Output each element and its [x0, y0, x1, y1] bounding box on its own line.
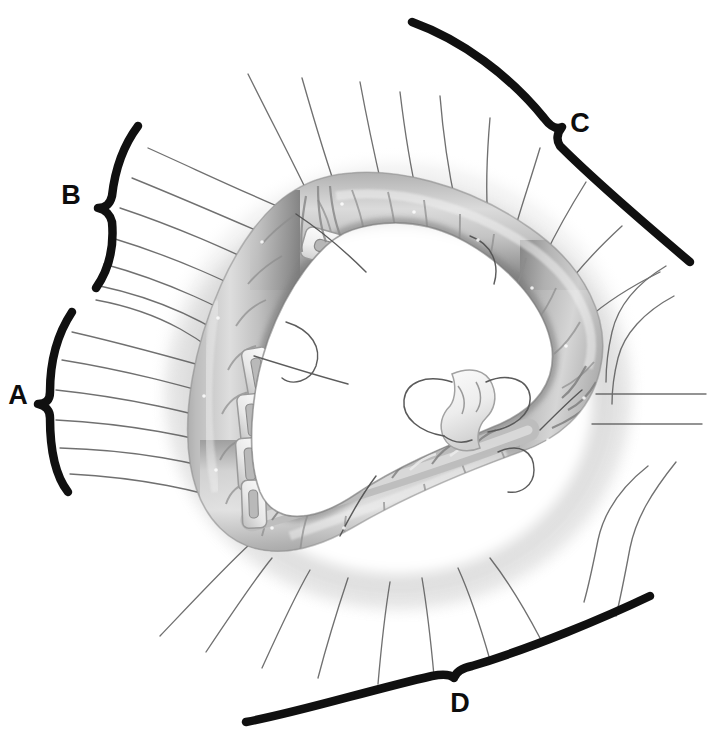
bracket-b-label: B	[61, 180, 81, 210]
bracket-a-label: A	[8, 380, 28, 410]
bracket-c-label: C	[570, 108, 590, 138]
bracket-d-label: D	[450, 688, 470, 718]
bracket-b: B	[61, 126, 138, 288]
illustration-figure: B A C D	[0, 0, 710, 738]
bracket-a: A	[8, 312, 72, 492]
anatomical-illustration-canvas: B A C D	[0, 0, 710, 738]
